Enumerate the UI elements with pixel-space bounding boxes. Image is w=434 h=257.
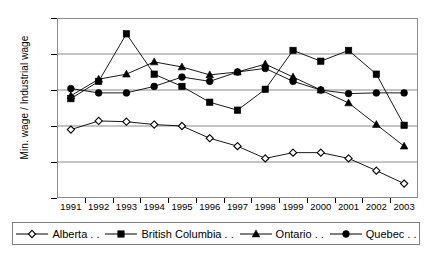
data-point-filled-square xyxy=(123,31,129,37)
legend-marker-filled-square xyxy=(104,228,138,240)
chart-figure: Min. wage / Industrial wage 0.250.300.35… xyxy=(0,0,434,257)
legend-item[interactable]: British Columbia . . xyxy=(104,228,233,240)
data-point-filled-square xyxy=(151,71,157,77)
data-point-filled-circle xyxy=(262,65,269,72)
data-point-filled-circle xyxy=(123,89,130,96)
data-point-open-diamond xyxy=(401,180,408,187)
data-point-filled-circle xyxy=(95,89,102,96)
legend-marker-filled-circle xyxy=(329,228,363,240)
data-point-open-diamond xyxy=(317,149,324,156)
x-axis-tick-label: 2001 xyxy=(338,201,359,212)
data-point-filled-circle xyxy=(67,85,74,92)
data-point-open-diamond xyxy=(206,135,213,142)
data-point-filled-circle xyxy=(234,69,241,76)
legend-item[interactable]: Alberta . . xyxy=(15,228,99,240)
y-axis-tick-mark xyxy=(51,198,57,199)
x-axis-tick-mark xyxy=(362,198,363,203)
data-point-filled-square xyxy=(401,122,407,128)
x-axis-tick-label: 1992 xyxy=(88,201,109,212)
x-axis-tick-label: 1998 xyxy=(255,201,276,212)
data-point-filled-circle xyxy=(317,87,324,94)
series-line xyxy=(71,121,404,184)
x-axis-tick-label: 2000 xyxy=(310,201,331,212)
data-point-open-diamond xyxy=(345,155,352,162)
x-axis-tick-label: 1997 xyxy=(227,201,248,212)
legend-marker-open-diamond xyxy=(15,228,49,240)
x-axis-tick-mark xyxy=(168,198,169,203)
data-point-open-diamond xyxy=(67,126,74,133)
x-axis-tick-mark xyxy=(224,198,225,203)
legend-label: Alberta . . xyxy=(52,228,99,240)
x-axis-tick-label: 2003 xyxy=(394,201,415,212)
x-axis-tick-mark xyxy=(196,198,197,203)
x-axis-tick-mark xyxy=(335,198,336,203)
data-point-open-diamond xyxy=(178,122,185,129)
x-axis-tick-mark xyxy=(113,198,114,203)
legend-label: British Columbia . . xyxy=(141,228,233,240)
legend-label: Ontario . . xyxy=(276,228,324,240)
data-point-filled-circle xyxy=(206,78,213,85)
data-point-open-diamond xyxy=(151,121,158,128)
y-axis-title: Min. wage / Industrial wage xyxy=(19,18,30,178)
data-point-filled-triangle xyxy=(252,230,260,237)
x-axis-tick-label: 1995 xyxy=(171,201,192,212)
x-axis-tick-mark xyxy=(251,198,252,203)
data-point-filled-square xyxy=(345,47,351,53)
x-axis-tick-label: 1996 xyxy=(199,201,220,212)
data-point-filled-circle xyxy=(373,89,380,96)
data-point-filled-square xyxy=(179,83,185,89)
data-point-filled-square xyxy=(373,71,379,77)
data-point-filled-triangle xyxy=(345,99,353,106)
chart-legend: Alberta . .British Columbia . .Ontario .… xyxy=(12,222,420,245)
legend-label: Quebec . . xyxy=(366,228,417,240)
x-axis-tick-label: 2002 xyxy=(366,201,387,212)
data-point-filled-circle xyxy=(179,74,186,81)
data-point-open-diamond xyxy=(289,149,296,156)
data-point-filled-circle xyxy=(342,230,349,237)
x-axis-tick-label: 1993 xyxy=(116,201,137,212)
data-point-filled-triangle xyxy=(150,58,158,65)
x-axis-tick-mark xyxy=(390,198,391,203)
data-point-filled-square xyxy=(207,99,213,105)
legend-marker-filled-triangle xyxy=(239,228,273,240)
x-axis-tick-label: 1991 xyxy=(60,201,81,212)
data-point-filled-square xyxy=(318,58,324,64)
data-point-filled-square xyxy=(290,47,296,53)
plot-area xyxy=(57,18,418,198)
x-axis-tick-mark xyxy=(85,198,86,203)
x-axis-tick-label: 1999 xyxy=(282,201,303,212)
data-point-open-diamond xyxy=(123,118,130,125)
data-point-filled-circle xyxy=(290,78,297,85)
x-axis-tick-mark xyxy=(140,198,141,203)
data-point-open-diamond xyxy=(95,117,102,124)
x-axis-tick-label: 1994 xyxy=(144,201,165,212)
data-point-open-diamond xyxy=(234,143,241,150)
data-point-open-diamond xyxy=(373,167,380,174)
data-point-open-diamond xyxy=(29,230,36,237)
data-point-filled-square xyxy=(234,107,240,113)
chart-canvas xyxy=(57,18,418,198)
data-point-filled-triangle xyxy=(400,142,408,149)
legend-item[interactable]: Ontario . . xyxy=(239,228,324,240)
data-point-open-diamond xyxy=(262,155,269,162)
x-axis-tick-mark xyxy=(279,198,280,203)
legend-item[interactable]: Quebec . . xyxy=(329,228,417,240)
data-point-filled-circle xyxy=(345,90,352,97)
data-point-filled-triangle xyxy=(373,121,381,128)
data-point-filled-triangle xyxy=(123,70,131,77)
data-point-filled-square xyxy=(262,86,268,92)
data-point-filled-circle xyxy=(151,83,158,90)
data-point-filled-square xyxy=(118,230,124,236)
x-axis-tick-mark xyxy=(307,198,308,203)
data-point-filled-circle xyxy=(401,89,408,96)
